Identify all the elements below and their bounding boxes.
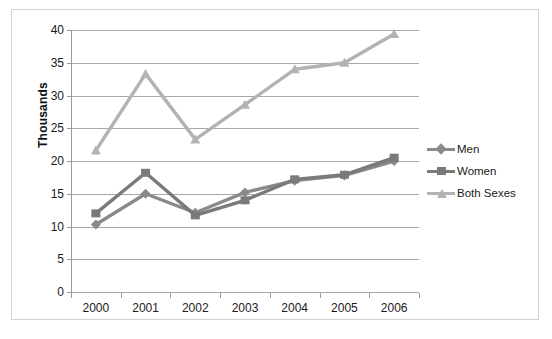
y-axis-tick-label: 5: [34, 253, 64, 265]
y-axis-tick-labels: 0510152025303540: [30, 30, 64, 292]
data-point: [241, 196, 250, 204]
x-axis-tick: [170, 293, 171, 298]
chart-frame: Thousands 0510152025303540 2000200120022…: [11, 9, 539, 320]
series-layer: [71, 30, 419, 292]
y-axis-line: [71, 30, 72, 293]
data-point: [290, 175, 299, 183]
y-axis-tick-label: 30: [34, 90, 64, 102]
series-line: [96, 34, 394, 151]
data-point: [240, 187, 250, 197]
series-both-sexes: [91, 29, 399, 155]
y-axis-tick-label: 15: [34, 188, 64, 200]
x-axis-tick-label: 2006: [371, 301, 417, 315]
x-axis-tick: [71, 293, 72, 298]
data-point: [340, 171, 349, 179]
legend-marker-triangle-icon: [437, 189, 447, 198]
data-point: [141, 169, 150, 177]
chart-container: Thousands 0510152025303540 2000200120022…: [0, 0, 552, 339]
x-axis-tick-label: 2003: [222, 301, 268, 315]
series-men: [91, 156, 399, 230]
series-line: [96, 158, 394, 216]
legend-item-women[interactable]: Women: [427, 163, 535, 179]
data-point: [390, 154, 399, 162]
x-axis-tick-label: 2000: [73, 301, 119, 315]
y-axis-tick-label: 40: [34, 24, 64, 36]
data-point: [191, 211, 200, 219]
x-axis-tick-label: 2004: [272, 301, 318, 315]
legend-item-men[interactable]: Men: [427, 141, 535, 157]
cropped-text-sliver: [0, 0, 552, 7]
x-axis-tick: [320, 293, 321, 298]
x-axis-ticks: [71, 293, 420, 299]
x-axis-tick-labels: 2000200120022003200420052006: [71, 301, 420, 319]
x-axis-tick: [121, 293, 122, 298]
legend-marker-square-icon: [437, 167, 446, 175]
x-axis-tick-label: 2001: [123, 301, 169, 315]
data-point: [91, 209, 100, 217]
x-axis-tick: [419, 293, 420, 298]
legend-marker-diamond-icon: [435, 143, 446, 154]
x-axis-tick: [369, 293, 370, 298]
y-axis-tick-label: 25: [34, 122, 64, 134]
chart-legend: MenWomenBoth Sexes: [427, 141, 535, 205]
plot-area: [71, 30, 419, 292]
x-axis-tick-label: 2002: [172, 301, 218, 315]
legend-label: Women: [457, 165, 496, 177]
y-axis-tick-label: 0: [34, 286, 64, 298]
legend-item-both-sexes[interactable]: Both Sexes: [427, 185, 535, 201]
x-axis-tick: [220, 293, 221, 298]
data-point: [141, 69, 151, 78]
y-axis-tick-label: 20: [34, 155, 64, 167]
x-axis-tick: [270, 293, 271, 298]
x-axis-tick-label: 2005: [321, 301, 367, 315]
legend-label: Both Sexes: [457, 187, 516, 199]
legend-label: Men: [457, 143, 479, 155]
legend-swatch-icon: [427, 165, 455, 177]
legend-swatch-icon: [427, 143, 455, 155]
series-women: [91, 154, 398, 220]
y-axis-tick-label: 35: [34, 57, 64, 69]
data-point: [389, 29, 399, 38]
y-axis-tick-label: 10: [34, 221, 64, 233]
legend-swatch-icon: [427, 187, 455, 199]
